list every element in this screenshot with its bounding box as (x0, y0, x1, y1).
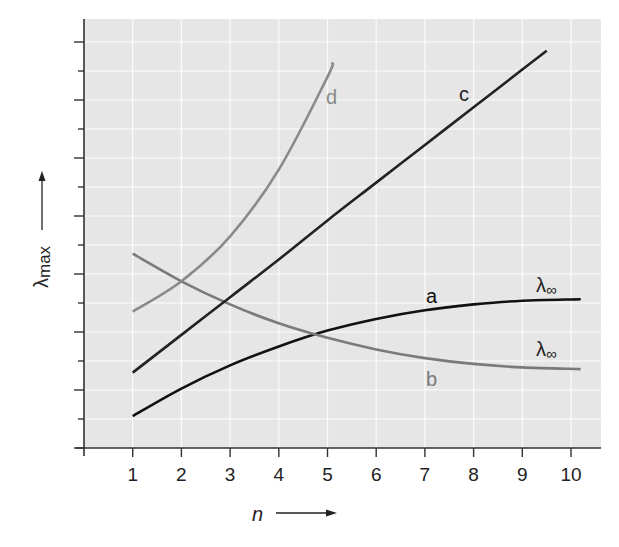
x-tick-label: 1 (127, 464, 138, 485)
x-tick-label: 3 (225, 464, 236, 485)
x-tick-label: 10 (560, 464, 581, 485)
x-tick-label: 5 (322, 464, 333, 485)
curve-label-a: a (426, 285, 438, 307)
x-tick-label: 6 (371, 464, 382, 485)
x-tick-label: 2 (176, 464, 187, 485)
curve-label-d: d (326, 86, 337, 108)
svg-text:λmax: λmax (30, 245, 54, 288)
y-ticks (74, 42, 84, 448)
y-axis-arrow-icon (39, 171, 46, 230)
x-tick-label: 9 (517, 464, 528, 485)
x-tick-label: 8 (468, 464, 479, 485)
curve-label-b: b (426, 368, 437, 390)
x-tick-label: 7 (420, 464, 431, 485)
x-tick-label: 4 (274, 464, 285, 485)
plot-area (84, 19, 601, 448)
x-axis-arrow-icon (276, 510, 337, 517)
chart: 12345678910 d c a b λ∞ λ∞ λmax (0, 0, 619, 547)
x-axis-title: n (252, 503, 263, 525)
y-axis-title: λmax (30, 245, 54, 288)
caption-fragment (0, 530, 619, 547)
x-ticks: 12345678910 (127, 448, 581, 485)
curve-label-c: c (459, 83, 469, 105)
